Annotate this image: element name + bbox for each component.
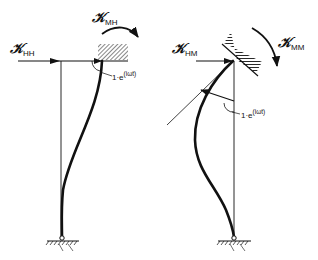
left-force-label: 𝒦HH <box>9 40 35 58</box>
right-label-leader <box>232 112 240 114</box>
left-fixed-head-block <box>98 44 128 60</box>
right-force-label: 𝒦HM <box>171 40 198 58</box>
left-force-arrow-icon <box>50 58 60 64</box>
left-deflected-pile-curve <box>62 61 102 237</box>
left-displacement-label: 1·e(iωt) <box>112 70 136 82</box>
left-panel-horizontal-displacement: 𝒦HH 𝒦MH 1·e(iωt) <box>9 9 138 251</box>
left-pin-support-icon <box>46 236 79 251</box>
left-moment-label: 𝒦MH <box>91 9 118 27</box>
right-pin-support-icon <box>217 236 251 251</box>
right-rotation-label: 1·e(iωt) <box>241 108 265 120</box>
pile-stiffness-diagram: 𝒦HH 𝒦MH 1·e(iωt) <box>0 0 318 260</box>
left-moment-arrow-icon <box>102 28 138 37</box>
right-angle-arc <box>224 103 234 112</box>
right-panel-rotation: 𝒦HM 𝒦MM 1·e(iωt) <box>167 28 305 251</box>
right-moment-label: 𝒦MM <box>277 34 305 52</box>
right-fixed-head-block <box>224 32 262 73</box>
right-deflected-pile-curve <box>195 61 234 237</box>
